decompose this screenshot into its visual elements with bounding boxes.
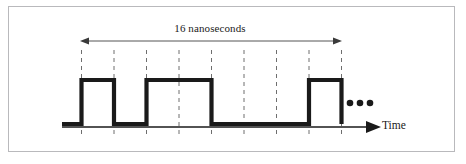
time-axis-label: Time xyxy=(382,119,406,131)
ellipsis-icon xyxy=(347,100,374,107)
timing-diagram-figure: 16 nanoseconds Time xyxy=(0,0,466,164)
dimension-label: 16 nanoseconds xyxy=(130,22,290,34)
signal-waveform xyxy=(62,80,342,124)
dimension-arrow xyxy=(80,38,342,45)
